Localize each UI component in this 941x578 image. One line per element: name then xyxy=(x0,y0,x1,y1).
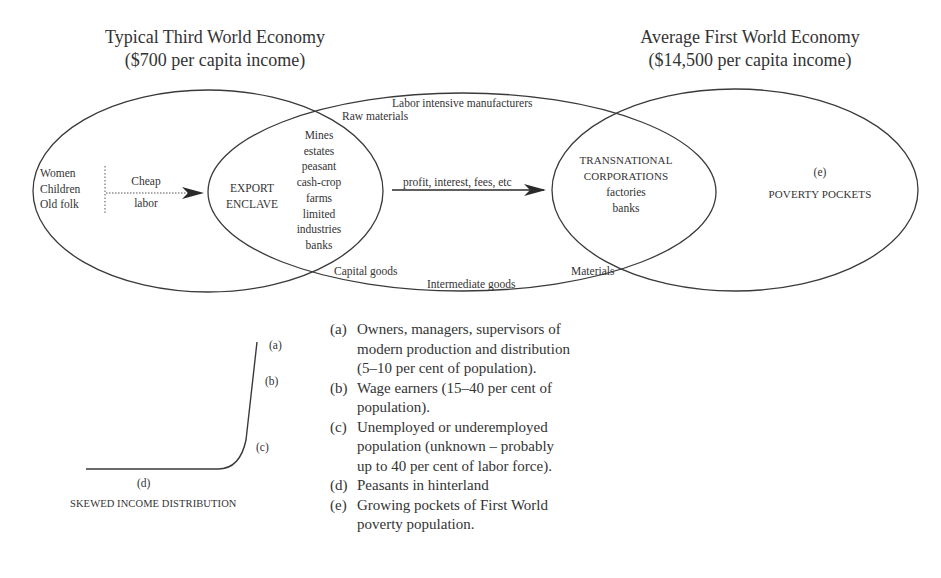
enclave-item: estates xyxy=(286,144,352,160)
capital-goods-label: Capital goods xyxy=(334,264,398,278)
profit-label: profit, interest, fees, etc xyxy=(403,175,512,189)
export-enclave-line2: ENCLAVE xyxy=(219,196,285,212)
legend-item-b: (b) Wage earners (15–40 per cent of popu… xyxy=(330,379,570,418)
legend-key: (b) xyxy=(330,379,357,418)
enclave-item: cash-crop xyxy=(286,175,352,191)
dist-label-c: (c) xyxy=(256,440,269,454)
group-women: Women xyxy=(40,166,100,182)
dist-label-d: (d) xyxy=(137,476,150,490)
enclave-items: Mines estates peasant cash-crop farms li… xyxy=(286,128,352,254)
export-enclave-label: EXPORT ENCLAVE xyxy=(219,180,285,212)
export-enclave-line1: EXPORT xyxy=(219,180,285,196)
third-world-title: Typical Third World Economy ($700 per ca… xyxy=(90,26,340,72)
third-world-title-line2: ($700 per capita income) xyxy=(90,49,340,72)
legend: (a) Owners, managers, supervisors of mod… xyxy=(330,320,570,535)
legend-text: Wage earners (15–40 per cent of populati… xyxy=(357,379,570,418)
income-distribution-curve xyxy=(86,342,257,469)
legend-text: Growing pockets of First World poverty p… xyxy=(357,496,570,535)
enclave-item: industries xyxy=(286,222,352,238)
distribution-title: SKEWED INCOME DISTRIBUTION xyxy=(70,497,237,511)
legend-text: Peasants in hinterland xyxy=(357,476,570,496)
legend-text: Unemployed or underemployed population (… xyxy=(357,418,570,477)
legend-item-d: (d) Peasants in hinterland xyxy=(330,476,570,496)
intermediate-goods-label: Intermediate goods xyxy=(427,277,515,291)
tnc-line2: CORPORATIONS xyxy=(570,168,682,184)
enclave-item: peasant xyxy=(286,159,352,175)
poverty-pockets-label: POVERTY POCKETS xyxy=(755,187,885,201)
enclave-item: limited xyxy=(286,207,352,223)
legend-key: (a) xyxy=(330,320,357,379)
legend-item-e: (e) Growing pockets of First World pover… xyxy=(330,496,570,535)
enclave-item: farms xyxy=(286,191,352,207)
tnc-line4: banks xyxy=(570,200,682,216)
dist-label-a: (a) xyxy=(269,338,282,352)
first-world-title: Average First World Economy ($14,500 per… xyxy=(620,26,880,72)
third-world-title-line1: Typical Third World Economy xyxy=(90,26,340,49)
tnc-line3: factories xyxy=(570,184,682,200)
legend-key: (e) xyxy=(330,496,357,535)
legend-key: (c) xyxy=(330,418,357,477)
labor-intensive-label: Labor intensive manufacturers xyxy=(392,96,533,110)
raw-materials-label: Raw materials xyxy=(342,109,408,123)
labor-label: labor xyxy=(120,196,172,210)
legend-item-c: (c) Unemployed or underemployed populati… xyxy=(330,418,570,477)
tnc-line1: TRANSNATIONAL xyxy=(570,152,682,168)
group-children: Children xyxy=(40,182,100,198)
legend-key: (d) xyxy=(330,476,357,496)
legend-text: Owners, managers, supervisors of modern … xyxy=(357,320,570,379)
enclave-item: Mines xyxy=(286,128,352,144)
dist-label-b: (b) xyxy=(265,374,278,388)
cheap-label: Cheap xyxy=(120,174,172,188)
materials-label: Materials xyxy=(571,264,614,278)
legend-item-a: (a) Owners, managers, supervisors of mod… xyxy=(330,320,570,379)
enclave-item: banks xyxy=(286,238,352,254)
group-old-folk: Old folk xyxy=(40,197,100,213)
poverty-key: (e) xyxy=(770,165,870,179)
transnational-corporations: TRANSNATIONAL CORPORATIONS factories ban… xyxy=(570,152,682,216)
first-world-title-line2: ($14,500 per capita income) xyxy=(620,49,880,72)
first-world-title-line1: Average First World Economy xyxy=(620,26,880,49)
vulnerable-groups: Women Children Old folk xyxy=(40,166,100,213)
